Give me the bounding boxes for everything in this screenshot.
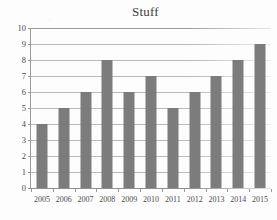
y-tick-label: 0 (22, 183, 26, 193)
x-tick-mark (184, 189, 185, 192)
bar-slot (75, 28, 97, 188)
bar-series (31, 28, 271, 188)
y-tick-label: 3 (22, 135, 26, 145)
x-tick-mark (162, 189, 163, 192)
bar (189, 92, 200, 188)
y-tick-label: 2 (22, 151, 26, 161)
y-tick-label: 10 (18, 23, 27, 33)
bar-slot (162, 28, 184, 188)
bar (58, 108, 69, 188)
bar-slot (184, 28, 206, 188)
bar-slot (227, 28, 249, 188)
bar (36, 124, 47, 188)
bar (255, 44, 266, 188)
x-tick-mark (53, 189, 54, 192)
x-tick-mark (140, 189, 141, 192)
x-tick-mark (227, 189, 228, 192)
y-tick-label: 9 (22, 39, 26, 49)
bar (233, 60, 244, 188)
bar (80, 92, 91, 188)
plot-area: 012345678910 (31, 28, 271, 188)
y-tick-label: 8 (22, 55, 26, 65)
bar-slot (249, 28, 271, 188)
bar (145, 76, 156, 188)
x-tick-label: 2012 (187, 195, 203, 204)
bar-chart: Stuff 012345678910 200520062007200820092… (0, 0, 277, 220)
y-tick-label: 1 (22, 167, 26, 177)
y-tick-label: 7 (22, 71, 26, 81)
bar (167, 108, 178, 188)
x-tick-label: 2013 (208, 195, 224, 204)
y-tick-label: 5 (22, 103, 26, 113)
x-tick-mark (206, 189, 207, 192)
x-axis-labels: 2005200620072008200920102011201220132014… (31, 189, 271, 219)
bar (124, 92, 135, 188)
y-tick-label: 6 (22, 87, 26, 97)
x-tick-label: 2015 (252, 195, 268, 204)
bar-slot (206, 28, 228, 188)
chart-title: Stuff (0, 4, 277, 20)
bar-slot (53, 28, 75, 188)
x-tick-label: 2014 (230, 195, 246, 204)
y-tick-label: 4 (22, 119, 26, 129)
x-tick-mark (118, 189, 119, 192)
x-tick-label: 2007 (78, 195, 94, 204)
bar-slot (96, 28, 118, 188)
x-tick-mark (31, 189, 32, 192)
x-tick-label: 2005 (34, 195, 50, 204)
x-tick-label: 2006 (56, 195, 72, 204)
x-tick-label: 2008 (99, 195, 115, 204)
x-tick-mark (271, 189, 272, 192)
bar-slot (118, 28, 140, 188)
bar (102, 60, 113, 188)
x-tick-mark (249, 189, 250, 192)
x-tick-mark (75, 189, 76, 192)
bar-slot (31, 28, 53, 188)
x-tick-mark (96, 189, 97, 192)
bar-slot (140, 28, 162, 188)
x-tick-label: 2010 (143, 195, 159, 204)
x-tick-label: 2011 (165, 195, 181, 204)
bar (211, 76, 222, 188)
x-tick-label: 2009 (121, 195, 137, 204)
